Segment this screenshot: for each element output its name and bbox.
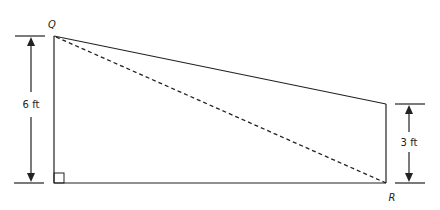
left-height-label: 6 ft [23, 99, 40, 110]
point-q-label: Q [48, 19, 56, 30]
right-angle-marker [54, 173, 64, 183]
diagram-canvas: 6 ft 3 ft Q R [0, 0, 440, 210]
arrow-up-icon [405, 105, 413, 114]
point-r-label: R [389, 192, 396, 203]
diagonal-qr [56, 37, 386, 183]
right-height-label: 3 ft [401, 137, 418, 148]
arrow-down-icon [405, 173, 413, 182]
arrow-down-icon [27, 173, 35, 182]
trapezoid-diagram: 6 ft 3 ft Q R [0, 0, 440, 210]
top-side [54, 36, 386, 104]
arrow-up-icon [27, 37, 35, 46]
